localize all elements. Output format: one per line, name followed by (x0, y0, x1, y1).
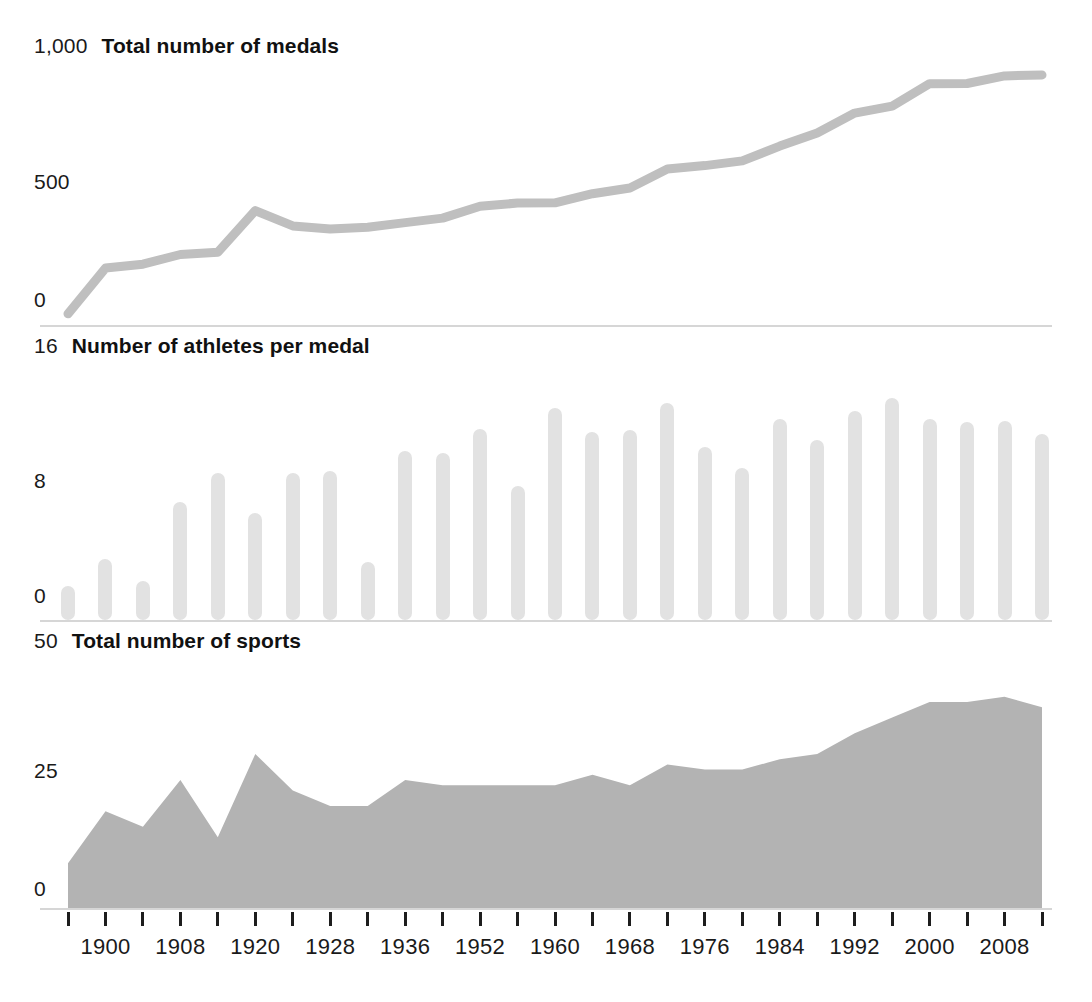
bar-1964 (585, 432, 599, 620)
bar-1980 (735, 468, 749, 620)
bar-1968 (623, 430, 637, 620)
bar-2012 (1035, 434, 1049, 621)
bar-1972 (660, 403, 674, 620)
x-tick-1924 (291, 912, 294, 926)
x-axis-label-1960: 1960 (530, 934, 580, 960)
x-tick-2000 (928, 912, 931, 926)
infographic-page: 1,000 Total number of medals 500 0 16 Nu… (0, 0, 1092, 1002)
x-axis-label-1952: 1952 (455, 934, 505, 960)
x-axis-label-1936: 1936 (380, 934, 430, 960)
bar-chart-athletes-per-medal (0, 330, 1092, 625)
x-axis: 1900190819201928193619521960196819761984… (0, 908, 1092, 1002)
x-axis-label-2008: 2008 (979, 934, 1029, 960)
y-axis-mid-label-athletes: 8 (34, 469, 46, 493)
x-tick-1896 (67, 912, 70, 926)
bar-1988 (810, 440, 824, 620)
x-tick-1948 (441, 912, 444, 926)
y-axis-mid-label-sports: 25 (34, 759, 58, 783)
x-tick-1900 (104, 912, 107, 926)
bar-1908 (173, 502, 187, 620)
x-axis-label-2000: 2000 (905, 934, 955, 960)
x-axis-label-1976: 1976 (680, 934, 730, 960)
bar-1924 (286, 473, 300, 621)
panel-title-total-sports: Total number of sports (72, 629, 301, 653)
bar-1984 (773, 419, 787, 620)
sports-area-series (68, 697, 1042, 910)
bar-1952 (473, 429, 487, 620)
bar-1928 (323, 471, 337, 620)
line-chart-total-medals (0, 30, 1092, 330)
bar-2008 (998, 421, 1012, 621)
panel-header-total-sports: 50 Total number of sports (34, 629, 301, 653)
area-chart-total-sports (0, 625, 1092, 915)
panel-title-total-medals: Total number of medals (102, 34, 340, 58)
x-axis-label-1992: 1992 (830, 934, 880, 960)
bar-1900 (98, 559, 112, 620)
panel-title-athletes-per-medal: Number of athletes per medal (72, 334, 370, 358)
baseline-medals (40, 325, 1052, 327)
x-tick-1980 (741, 912, 744, 926)
x-tick-1952 (479, 912, 482, 926)
x-tick-1972 (666, 912, 669, 926)
bar-1960 (548, 408, 562, 621)
x-axis-label-1908: 1908 (155, 934, 205, 960)
y-axis-zero-label-sports: 0 (34, 877, 46, 901)
x-tick-2008 (1003, 912, 1006, 926)
x-tick-1988 (816, 912, 819, 926)
bar-1904 (136, 581, 150, 620)
y-axis-top-label-medals: 1,000 (34, 34, 88, 58)
x-tick-1960 (554, 912, 557, 926)
x-tick-1936 (404, 912, 407, 926)
x-tick-1920 (254, 912, 257, 926)
y-axis-mid-label-medals: 500 (34, 170, 70, 194)
medals-line-series (68, 75, 1042, 314)
x-tick-1976 (703, 912, 706, 926)
bar-2004 (960, 422, 974, 620)
x-tick-2012 (1041, 912, 1044, 926)
x-axis-rule (40, 908, 1052, 910)
y-axis-zero-label-athletes: 0 (34, 584, 46, 608)
bar-1992 (848, 411, 862, 620)
bar-1936 (398, 451, 412, 620)
bar-1976 (698, 447, 712, 621)
bar-1912 (211, 473, 225, 621)
x-axis-label-1928: 1928 (305, 934, 355, 960)
y-axis-top-label-sports: 50 (34, 629, 58, 653)
x-tick-1956 (516, 912, 519, 926)
bar-1948 (436, 453, 450, 620)
bar-1956 (511, 486, 525, 621)
bar-2000 (923, 419, 937, 620)
bar-1896 (61, 586, 75, 620)
chart-panel-total-medals: 1,000 Total number of medals 500 0 (0, 30, 1092, 330)
x-tick-1904 (141, 912, 144, 926)
y-axis-zero-label-medals: 0 (34, 288, 46, 312)
x-tick-1968 (628, 912, 631, 926)
y-axis-top-label-athletes: 16 (34, 334, 58, 358)
bar-1920 (248, 513, 262, 620)
x-tick-1996 (891, 912, 894, 926)
baseline-athletes (40, 620, 1052, 622)
chart-panel-athletes-per-medal: 16 Number of athletes per medal 8 0 (0, 330, 1092, 625)
x-tick-1932 (366, 912, 369, 926)
bar-1996 (885, 398, 899, 620)
chart-panel-total-sports: 50 Total number of sports 25 0 (0, 625, 1092, 915)
x-tick-1992 (853, 912, 856, 926)
bar-1932 (361, 562, 375, 620)
panel-header-total-medals: 1,000 Total number of medals (34, 34, 339, 58)
x-tick-2004 (966, 912, 969, 926)
x-tick-1908 (179, 912, 182, 926)
x-tick-1984 (778, 912, 781, 926)
x-tick-1912 (216, 912, 219, 926)
x-axis-label-1984: 1984 (755, 934, 805, 960)
x-axis-label-1920: 1920 (230, 934, 280, 960)
x-axis-label-1968: 1968 (605, 934, 655, 960)
panel-header-athletes-per-medal: 16 Number of athletes per medal (34, 334, 370, 358)
x-axis-label-1900: 1900 (80, 934, 130, 960)
x-tick-1964 (591, 912, 594, 926)
x-tick-1928 (329, 912, 332, 926)
